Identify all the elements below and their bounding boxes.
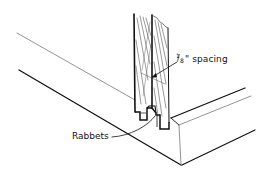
spacing-fraction: 1 / 8	[176, 55, 185, 65]
rabbets-leader	[112, 116, 155, 137]
frame-rail-right	[171, 88, 255, 165]
spacing-text: spacing	[189, 54, 227, 64]
rabbet-joint-drawing	[0, 0, 270, 180]
frame-rail-left	[17, 33, 181, 165]
rabbets-label: Rabbets	[72, 132, 109, 141]
diagram-canvas: 1 / 8 " spacing Rabbets	[0, 0, 270, 180]
spacing-label: 1 / 8 " spacing	[176, 55, 228, 65]
rabbet-joint	[135, 106, 169, 129]
fraction-denominator: 8	[180, 58, 184, 64]
